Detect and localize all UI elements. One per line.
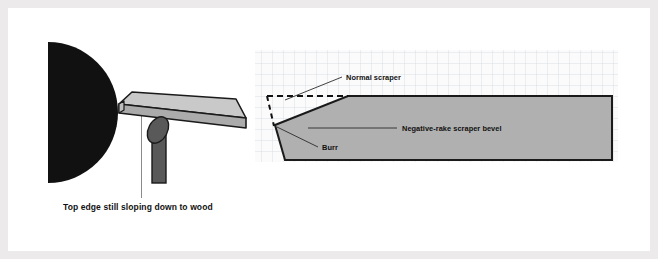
right-panel-diagram: Normal scraper Negative-rake scraper bev… (255, 50, 618, 162)
label-burr: Burr (322, 143, 338, 152)
figure-card: Normal scraper Negative-rake scraper bev… (8, 8, 650, 251)
wood-blank-half-disc (48, 42, 118, 183)
label-normal-scraper: Normal scraper (346, 73, 401, 82)
left-panel-caption: Top edge still sloping down to wood (63, 203, 213, 212)
label-negative-rake-bevel: Negative-rake scraper bevel (402, 124, 502, 133)
figure-svg: Normal scraper Negative-rake scraper bev… (8, 8, 650, 251)
figure-page: Normal scraper Negative-rake scraper bev… (0, 0, 658, 259)
left-panel-illustration (48, 42, 246, 198)
